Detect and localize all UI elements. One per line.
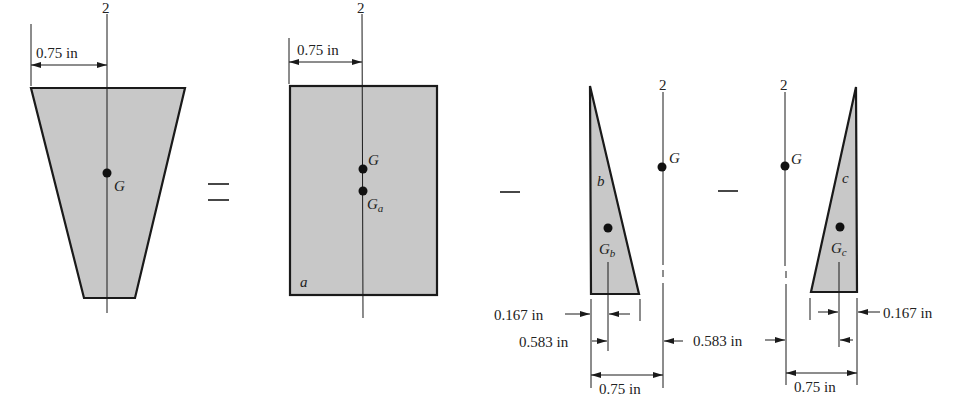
dimension-label-mid: 0.583 in — [519, 334, 569, 350]
part-label: b — [597, 173, 605, 189]
centroid-label: G — [114, 178, 125, 194]
axis-label: 2 — [780, 77, 788, 93]
centroid-dot — [781, 162, 790, 171]
triangle-b-shape — [590, 86, 639, 294]
dimension-label-total: 0.75 in — [794, 379, 836, 395]
triangle-c-panel: 2 G c Gc 0.167 in 0.583 in 0.75 in — [693, 77, 933, 395]
centroid-dot — [103, 169, 112, 178]
dimension-label: 0.75 in — [36, 45, 78, 61]
centroid-label: G — [669, 150, 680, 166]
axis-label: 2 — [102, 0, 110, 16]
axis-label: 2 — [357, 0, 365, 16]
dimension-label-small: 0.167 in — [883, 305, 933, 321]
part-centroid-dot — [836, 223, 845, 232]
centroid-label: G — [368, 152, 379, 168]
trapezoid-shape — [31, 88, 185, 298]
centroid-dot — [359, 165, 368, 174]
axis-label: 2 — [659, 77, 667, 93]
part-label: a — [300, 274, 308, 290]
triangle-c-shape — [811, 87, 857, 292]
equals-operator — [208, 184, 229, 200]
dimension-label-mid: 0.583 in — [693, 333, 743, 349]
dimension-label-small: 0.167 in — [494, 307, 544, 323]
centroid-label: G — [791, 151, 802, 167]
dimension-label: 0.75 in — [297, 42, 339, 58]
composite-area-diagram: 2 G 0.75 in 2 G Ga a 0.75 in 2 G b — [0, 0, 979, 415]
part-centroid-dot — [359, 187, 368, 196]
part-centroid-dot — [604, 224, 613, 233]
trapezoid-panel: 2 G 0.75 in — [31, 0, 185, 313]
dimension-label-total: 0.75 in — [599, 381, 641, 397]
centroid-dot — [658, 163, 667, 172]
part-label: c — [842, 170, 849, 186]
triangle-b-panel: 2 G b Gb 0.167 in 0.583 in 0.75 in — [494, 77, 683, 397]
rectangle-panel: 2 G Ga a 0.75 in — [289, 0, 437, 318]
